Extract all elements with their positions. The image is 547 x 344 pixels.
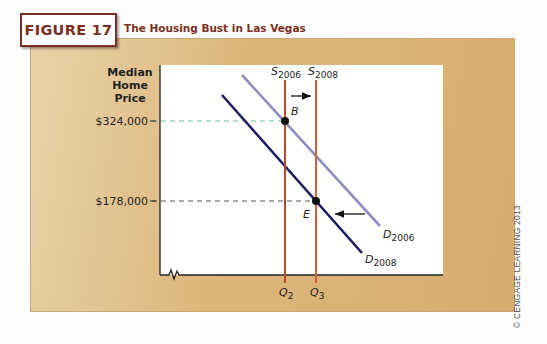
y-axis-label-line2: Home — [112, 79, 148, 92]
x-tick-q2: Q2 — [279, 286, 293, 301]
point-e-marker — [312, 197, 320, 205]
y-tick-178000: $178,000 — [96, 195, 149, 208]
point-b-marker — [281, 117, 289, 125]
y-axis-label-line3: Price — [114, 92, 145, 105]
copyright-notice: © CENGAGE LEARNING 2013 — [512, 205, 522, 328]
point-e-label: E — [303, 208, 310, 221]
chart-svg: Median Home Price $324,000 $178,000 S200… — [0, 0, 547, 344]
y-tick-324000: $324,000 — [96, 115, 149, 128]
point-b-label: B — [291, 105, 299, 118]
x-tick-q3: Q3 — [310, 286, 324, 301]
y-axis-label-line1: Median — [107, 66, 152, 79]
